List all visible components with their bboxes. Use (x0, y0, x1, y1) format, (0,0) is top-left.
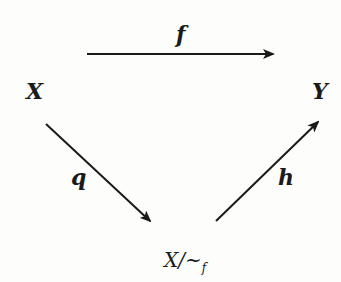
arrows-layer (0, 0, 341, 282)
arrow-h (216, 122, 318, 221)
node-quotient: X/~f (164, 250, 206, 274)
label-q: q (71, 166, 86, 188)
quotient-subscript: f (202, 261, 206, 275)
label-f: f (176, 23, 185, 45)
node-y: Y (312, 80, 328, 102)
quotient-base: X/~ (164, 248, 202, 272)
arrow-q (46, 124, 150, 221)
commutative-diagram: f X Y q h X/~f (0, 0, 341, 282)
node-x: X (26, 80, 43, 102)
label-h: h (278, 166, 294, 188)
